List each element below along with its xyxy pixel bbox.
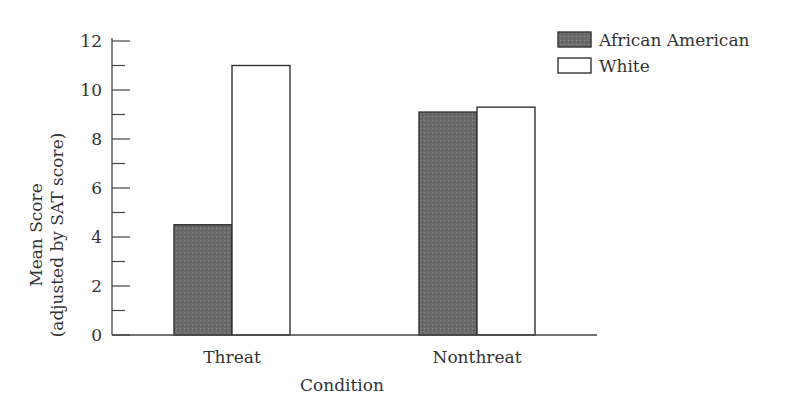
y-axis-ticks: 024681012 bbox=[80, 31, 130, 345]
y-tick-label: 12 bbox=[80, 31, 102, 51]
y-axis-title: Mean Score (adjusted by SAT score) bbox=[26, 133, 67, 338]
y-axis-title-line1: Mean Score bbox=[26, 183, 46, 287]
y-tick-label: 8 bbox=[91, 129, 102, 149]
bar-chart: Mean Score (adjusted by SAT score) 02468… bbox=[0, 0, 786, 410]
x-axis-title: Condition bbox=[300, 375, 384, 395]
y-tick-label: 10 bbox=[80, 80, 102, 100]
bar-threat-white bbox=[232, 66, 290, 336]
legend-label: African American bbox=[598, 30, 750, 50]
bars bbox=[174, 66, 535, 336]
bar-nonthreat-white bbox=[477, 107, 535, 335]
legend-swatch bbox=[558, 58, 591, 73]
y-tick-label: 0 bbox=[91, 325, 102, 345]
y-tick-label: 6 bbox=[91, 178, 102, 198]
bar-threat-african-american bbox=[174, 225, 232, 335]
x-axis-labels: ThreatNonthreat bbox=[203, 347, 521, 367]
legend: African AmericanWhite bbox=[558, 30, 750, 76]
y-axis-title-line2: (adjusted by SAT score) bbox=[47, 133, 67, 338]
legend-swatch bbox=[558, 32, 591, 47]
y-tick-label: 4 bbox=[91, 227, 102, 247]
y-tick-label: 2 bbox=[91, 276, 102, 296]
x-tick-label: Nonthreat bbox=[433, 347, 522, 367]
legend-label: White bbox=[599, 56, 650, 76]
bar-nonthreat-african-american bbox=[419, 112, 477, 335]
x-tick-label: Threat bbox=[203, 347, 261, 367]
